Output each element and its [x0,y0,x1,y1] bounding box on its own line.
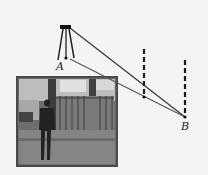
point-b-label: B [181,121,189,132]
tripod-icon [58,25,74,60]
diagram-canvas: A B [0,0,208,175]
diagram-svg [0,0,208,175]
photo-inset [17,77,117,166]
point-a-label: A [56,61,64,72]
